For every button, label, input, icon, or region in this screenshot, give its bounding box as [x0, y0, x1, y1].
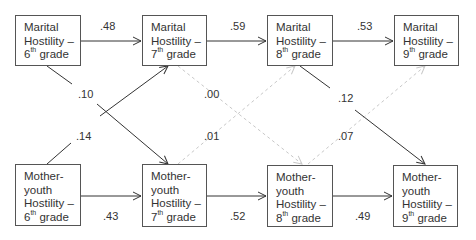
node-mother-youth-hostility-6th: Mother- youth Hostility – 6th grade [15, 164, 81, 226]
node-mother-youth-hostility-8th: Mother- youth Hostility – 8th grade [267, 165, 333, 227]
arrow-mh6-my7 [47, 66, 168, 164]
node-grade: 6th grade [24, 211, 80, 225]
node-grade: 9th grade [402, 212, 457, 226]
coef-mh6-my7: .10 [78, 88, 93, 100]
arrow-my7-mh8 [178, 66, 295, 164]
node-line: Marital [276, 21, 332, 35]
node-line: youth [276, 185, 332, 199]
coef-mh6-mh7: .48 [100, 20, 115, 32]
node-marital-hostility-8th: Marital Hostility – 8th grade [267, 15, 333, 66]
node-marital-hostility-9th: Marital Hostility – 9th grade [394, 15, 459, 66]
arrow-mh7-my8 [178, 66, 302, 164]
coef-mh7-my8: .00 [204, 88, 219, 100]
node-mother-youth-hostility-9th: Mother- youth Hostility – 9th grade [393, 165, 458, 227]
coef-my7-my8: .52 [230, 210, 245, 222]
node-marital-hostility-6th: Marital Hostility – 6th grade [15, 15, 81, 66]
node-line: Mother- [24, 170, 80, 184]
node-grade: 7th grade [151, 211, 206, 225]
node-line: Marital [403, 21, 458, 35]
node-line: Mother- [151, 170, 206, 184]
node-grade: 8th grade [276, 212, 332, 226]
node-line: Mother- [276, 171, 332, 185]
node-grade: 7th grade [151, 48, 206, 62]
node-line: Marital [151, 21, 206, 35]
coef-mh7-mh8: .59 [230, 20, 245, 32]
node-line: youth [402, 185, 457, 199]
coef-my8-my9: .49 [355, 210, 370, 222]
arrow-mh8-my9 [300, 66, 425, 164]
node-mother-youth-hostility-7th: Mother- youth Hostility – 7th grade [142, 164, 207, 227]
node-line: Marital [24, 21, 80, 35]
coef-mh8-my9: .12 [338, 92, 353, 104]
node-grade: 9th grade [403, 48, 458, 62]
coef-my6-mh7: .14 [76, 130, 91, 142]
coef-my6-my7: .43 [103, 210, 118, 222]
coef-my7-mh8: .01 [204, 130, 219, 142]
coef-mh8-mh9: .53 [357, 20, 372, 32]
arrow-my8-mh9 [308, 66, 425, 164]
node-line: Mother- [402, 171, 457, 185]
coef-my8-mh9: .07 [338, 130, 353, 142]
node-line: youth [151, 184, 206, 198]
node-line: youth [24, 184, 80, 198]
node-marital-hostility-7th: Marital Hostility – 7th grade [142, 15, 207, 66]
node-grade: 8th grade [276, 48, 332, 62]
node-grade: 6th grade [24, 48, 80, 62]
